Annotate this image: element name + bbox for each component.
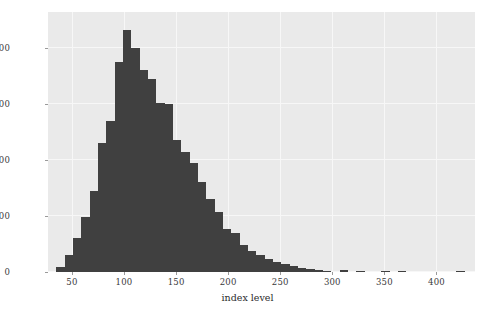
y-tick-label-600: 600 <box>0 99 10 109</box>
histogram-bar <box>173 140 181 272</box>
histogram-bar <box>215 212 223 272</box>
histogram-bar <box>165 104 173 272</box>
y-tick-label-0: 0 <box>0 267 10 277</box>
y-tick-mark-400 <box>45 160 48 161</box>
histogram-bar <box>265 259 273 272</box>
plot-area <box>48 12 475 272</box>
x-tick-mark-400 <box>436 272 437 275</box>
y-tick-mark-800 <box>45 48 48 49</box>
histogram-bar <box>315 270 323 272</box>
histogram-bar <box>281 264 289 272</box>
y-tick-mark-0 <box>45 272 48 273</box>
histogram-bar <box>340 270 348 272</box>
histogram-bar <box>206 199 214 272</box>
x-tick-mark-300 <box>332 272 333 275</box>
x-tick-label-400: 400 <box>416 277 456 287</box>
y-tick-label-800: 800 <box>0 43 10 53</box>
histogram-bar <box>323 271 331 272</box>
x-tick-mark-50 <box>72 272 73 275</box>
histogram-bar <box>231 233 239 272</box>
y-tick-label-400: 400 <box>0 155 10 165</box>
histogram-bar <box>273 262 281 272</box>
histogram-bar <box>181 152 189 272</box>
y-tick-mark-200 <box>45 216 48 217</box>
x-axis-label: index level <box>0 292 495 303</box>
histogram-bar <box>290 266 298 272</box>
histogram-bar <box>198 182 206 272</box>
histogram-bar <box>73 238 81 272</box>
x-tick-mark-150 <box>176 272 177 275</box>
x-tick-label-100: 100 <box>104 277 144 287</box>
histogram-bar <box>156 103 164 273</box>
y-tick-label-200: 200 <box>0 211 10 221</box>
histogram-bar <box>456 271 464 272</box>
x-tick-label-300: 300 <box>312 277 352 287</box>
histogram-bar <box>381 271 389 272</box>
histogram-bar <box>106 121 114 272</box>
x-tick-mark-250 <box>280 272 281 275</box>
x-tick-mark-100 <box>124 272 125 275</box>
x-tick-label-350: 350 <box>364 277 404 287</box>
x-tick-label-250: 250 <box>260 277 300 287</box>
histogram-bar <box>298 268 306 272</box>
histogram-bar <box>115 62 123 272</box>
x-tick-mark-200 <box>228 272 229 275</box>
histogram-figure: 0200400600800 50100150200250300350400 in… <box>0 0 495 314</box>
x-tick-label-200: 200 <box>208 277 248 287</box>
histogram-bar <box>248 251 256 272</box>
histogram-bar <box>223 229 231 272</box>
histogram-bars <box>48 12 475 272</box>
histogram-bar <box>98 143 106 272</box>
histogram-bar <box>56 267 64 272</box>
histogram-bar <box>65 255 73 272</box>
histogram-bar <box>148 79 156 272</box>
histogram-bar <box>131 48 139 272</box>
x-tick-label-50: 50 <box>52 277 92 287</box>
histogram-bar <box>90 191 98 272</box>
histogram-bar <box>81 217 89 272</box>
histogram-bar <box>356 271 364 272</box>
histogram-bar <box>306 269 314 272</box>
histogram-bar <box>398 271 406 272</box>
x-tick-label-150: 150 <box>156 277 196 287</box>
histogram-bar <box>240 245 248 272</box>
histogram-bar <box>123 30 131 272</box>
y-tick-mark-600 <box>45 104 48 105</box>
histogram-bar <box>190 163 198 272</box>
histogram-bar <box>140 70 148 272</box>
x-tick-mark-350 <box>384 272 385 275</box>
histogram-bar <box>256 255 264 272</box>
